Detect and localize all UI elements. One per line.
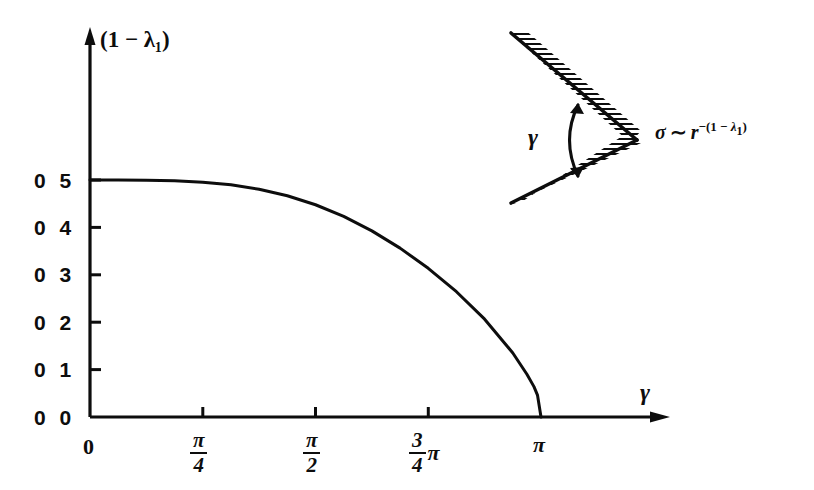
x-tick-pi4-denominator: 4 xyxy=(190,454,207,476)
figure-root: (1 − λ₁) 0 5 0 4 0 3 0 2 0 1 0 0 0 π 4 π… xyxy=(0,0,814,490)
y-tick-label-05: 0 5 xyxy=(34,170,75,191)
x-tick-pi2-denominator: 2 xyxy=(303,454,320,476)
formula-exponent-open: (1 − xyxy=(706,119,731,134)
x-tick-label-0: 0 xyxy=(83,436,94,458)
y-tick-label-03: 0 3 xyxy=(34,264,75,285)
formula-exponent-close: ) xyxy=(743,119,747,134)
x-axis-title: γ xyxy=(640,380,650,404)
x-tick-label-pi: π xyxy=(533,434,545,456)
y-tick-label-01: 0 1 xyxy=(34,359,75,380)
y-tick-label-00: 0 0 xyxy=(34,407,75,428)
x-tick-3pi4-suffix: π xyxy=(426,442,440,464)
x-tick-pi4-numerator: π xyxy=(190,430,207,454)
y-tick-label-02: 0 2 xyxy=(34,312,75,333)
formula-tilde: ∼ xyxy=(666,121,691,143)
x-tick-label-three-quarters-pi: 3 4 π xyxy=(409,430,440,477)
x-tick-pi2-numerator: π xyxy=(303,430,320,454)
x-tick-label-pi-over-4: π 4 xyxy=(190,430,207,477)
x-tick-3pi4-denominator: 4 xyxy=(409,454,426,476)
formula-exponent: −(1 − λ1) xyxy=(699,119,747,134)
label-layer: (1 − λ₁) 0 5 0 4 0 3 0 2 0 1 0 0 0 π 4 π… xyxy=(0,0,814,490)
inset-stress-formula: σ∼r−(1 − λ1) xyxy=(655,120,747,142)
formula-exponent-minus: − xyxy=(699,119,706,134)
x-tick-3pi4-numerator: 3 xyxy=(409,430,426,454)
x-tick-label-pi-over-2: π 2 xyxy=(303,430,320,477)
inset-gamma-label: γ xyxy=(528,125,538,149)
formula-base: r xyxy=(691,121,699,143)
y-tick-label-04: 0 4 xyxy=(34,217,75,238)
y-axis-title: (1 − λ₁) xyxy=(100,28,170,51)
formula-sigma: σ xyxy=(655,121,666,143)
